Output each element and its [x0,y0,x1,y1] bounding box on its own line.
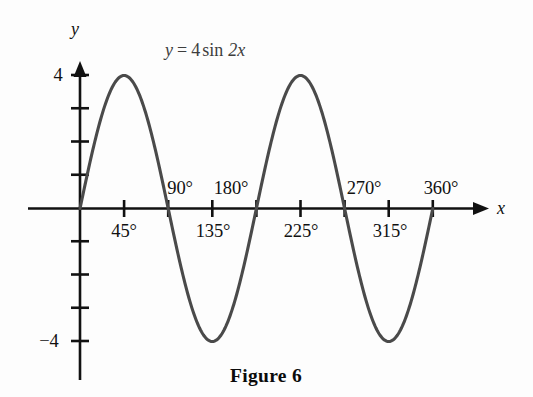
equation-function: sin [202,40,223,60]
x-axis-arrowhead [473,202,489,215]
x-tick-label-90: 90° [167,179,192,198]
x-tick-label-135: 135° [196,222,230,241]
plot-svg [0,0,533,397]
y-tick-label-minus-4: −4 [39,332,59,351]
x-tick-label-225: 225° [284,222,318,241]
x-tick-label-360: 360° [424,179,458,198]
y-tick-label-4: 4 [53,66,62,85]
equation-amplitude: 4 [191,40,200,60]
equation-annotation: y=4sin2x [165,41,245,59]
x-tick-label-315: 315° [373,222,407,241]
x-axis-label: x [497,199,505,217]
x-tick-label-45: 45° [111,222,136,241]
figure-container: y x 4 −4 90° 180° 270° 360° 45° 135° 225… [0,0,533,397]
equation-equals: = [177,40,187,60]
equation-lhs: y [165,40,173,60]
x-tick-label-180: 180° [214,179,248,198]
x-tick-label-270: 270° [347,179,381,198]
y-axis-label: y [71,20,79,38]
equation-argument: 2x [228,40,245,60]
figure-caption: Figure 6 [230,366,302,386]
